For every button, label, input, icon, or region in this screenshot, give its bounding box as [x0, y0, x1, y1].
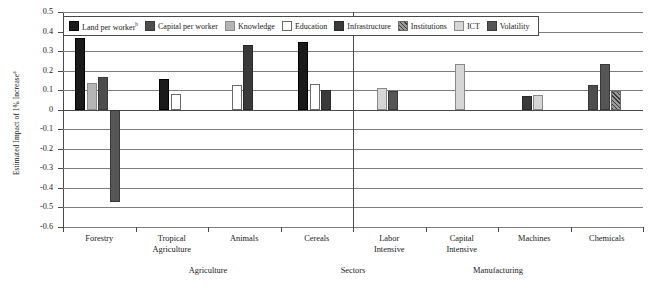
bar-ict[interactable]: [377, 88, 387, 110]
legend-swatch-knowledge: [225, 21, 235, 31]
bar-capital[interactable]: [588, 85, 598, 110]
bar-volatility[interactable]: [600, 64, 610, 110]
bar-infrastructure[interactable]: [522, 96, 532, 109]
y-axis-tick-label: 0.1: [13, 86, 53, 94]
y-axis-tick-label: 0: [13, 106, 53, 114]
bar-ict[interactable]: [455, 64, 465, 110]
chart-legend: Land per workerbCapital per workerKnowle…: [63, 16, 539, 36]
x-axis-label-line1: Capital: [426, 234, 499, 245]
x-axis-group-label: Sectors: [293, 266, 413, 275]
legend-item-infrastructure[interactable]: Infrastructure: [334, 21, 395, 31]
x-axis-label-line1: Animals: [208, 234, 281, 245]
x-axis-label: Forestry: [63, 234, 136, 245]
bar-land[interactable]: [159, 79, 169, 109]
bar-institutions[interactable]: [611, 91, 621, 110]
bar-group: [136, 12, 209, 227]
x-axis-group-label: Manufacturing: [438, 266, 558, 275]
y-axis-tick-label: -0.6: [13, 223, 53, 231]
x-axis-label-line1: Forestry: [63, 234, 136, 245]
x-axis-label-row: ForestryTropicalAgricultureAnimalsCereal…: [63, 232, 643, 258]
bar-group: [208, 12, 281, 227]
legend-swatch-volatility: [487, 21, 497, 31]
legend-swatch-ict: [454, 21, 464, 31]
legend-label-volatility: Volatility: [500, 22, 530, 31]
bar-group: [281, 12, 354, 227]
legend-label-institutions: Institutions: [411, 22, 447, 31]
bar-group: [353, 12, 426, 227]
y-axis-tick-label: 0.5: [13, 8, 53, 16]
x-axis-label-line1: Tropical: [136, 234, 209, 245]
x-axis-label-line2: Intensive: [426, 245, 499, 256]
legend-label-ict: ICT: [467, 22, 480, 31]
legend-swatch-infrastructure: [334, 21, 344, 31]
bar-land[interactable]: [298, 42, 308, 110]
bar-volatility[interactable]: [388, 91, 398, 110]
x-axis-label-line2: Agriculture: [136, 245, 209, 256]
x-axis-label: CapitalIntensive: [426, 234, 499, 255]
x-axis-label: Cereals: [281, 234, 354, 245]
y-axis-tick-label: -0.1: [13, 125, 53, 133]
x-axis-label: Chemicals: [571, 234, 644, 245]
legend-swatch-institutions: [398, 21, 408, 31]
legend-item-land[interactable]: Land per workerb: [69, 21, 142, 32]
legend-item-knowledge[interactable]: Knowledge: [225, 21, 279, 31]
bar-group: [426, 12, 499, 227]
bar-ict[interactable]: [533, 95, 543, 110]
x-axis-tick: [643, 227, 644, 232]
legend-item-volatility[interactable]: Volatility: [487, 21, 534, 31]
bar-infrastructure[interactable]: [243, 45, 253, 110]
bar-infrastructure[interactable]: [321, 90, 331, 110]
x-axis-label-line1: Chemicals: [571, 234, 644, 245]
x-axis-label-line1: Labor: [353, 234, 426, 245]
legend-superscript: b: [135, 21, 138, 27]
y-axis-tick-label: -0.2: [13, 145, 53, 153]
bar-education[interactable]: [171, 94, 181, 110]
y-axis-tick-label: -0.3: [13, 164, 53, 172]
x-axis-label-line1: Machines: [498, 234, 571, 245]
x-axis-label: Animals: [208, 234, 281, 245]
bar-group: [571, 12, 644, 227]
bar-capital[interactable]: [98, 77, 108, 109]
x-axis-label: Machines: [498, 234, 571, 245]
chart-root: Estimated Impact of 1% Increasea 0.50.40…: [0, 0, 659, 293]
legend-label-capital: Capital per worker: [158, 22, 218, 31]
x-axis-group-label: Agriculture: [148, 266, 268, 275]
plot-area: 0.50.40.30.20.10-0.1-0.2-0.3-0.4-0.5-0.6: [63, 12, 643, 227]
x-axis-group-label-row: AgricultureSectorsManufacturing: [63, 258, 643, 280]
legend-swatch-land: [69, 21, 79, 31]
legend-item-capital[interactable]: Capital per worker: [145, 21, 222, 31]
legend-label-education: Education: [295, 22, 327, 31]
x-axis-label-line1: Cereals: [281, 234, 354, 245]
legend-swatch-education: [282, 21, 292, 31]
legend-item-ict[interactable]: ICT: [454, 21, 484, 31]
bar-volatility[interactable]: [110, 110, 120, 202]
x-axis-label: TropicalAgriculture: [136, 234, 209, 255]
legend-label-land: Land per workerb: [82, 21, 138, 32]
y-axis-tick-label: 0.4: [13, 28, 53, 36]
legend-item-institutions[interactable]: Institutions: [398, 21, 451, 31]
x-axis-label-line2: Intensive: [353, 245, 426, 256]
legend-swatch-capital: [145, 21, 155, 31]
legend-item-education[interactable]: Education: [282, 21, 331, 31]
bar-education[interactable]: [232, 85, 242, 109]
panel-separator: [353, 12, 354, 227]
legend-label-infrastructure: Infrastructure: [347, 22, 391, 31]
y-axis-tick-label: -0.4: [13, 184, 53, 192]
bar-group: [498, 12, 571, 227]
legend-label-knowledge: Knowledge: [238, 22, 275, 31]
x-axis-label: LaborIntensive: [353, 234, 426, 255]
bar-knowledge[interactable]: [87, 83, 97, 110]
y-axis-tick-label: 0.2: [13, 67, 53, 75]
y-axis-tick-label: -0.5: [13, 203, 53, 211]
bar-land[interactable]: [75, 38, 85, 109]
x-axis: ForestryTropicalAgricultureAnimalsCereal…: [63, 227, 643, 280]
bar-education[interactable]: [310, 84, 320, 109]
y-axis-tick-label: 0.3: [13, 47, 53, 55]
bar-group: [63, 12, 136, 227]
